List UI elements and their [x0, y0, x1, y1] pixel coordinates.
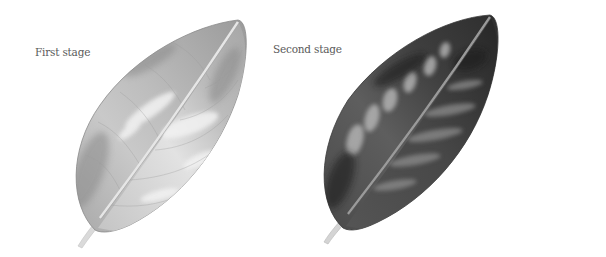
first-stage-leaf	[63, 20, 247, 248]
second-stage-leaf	[318, 15, 498, 244]
leaf-illustrations	[0, 0, 606, 257]
